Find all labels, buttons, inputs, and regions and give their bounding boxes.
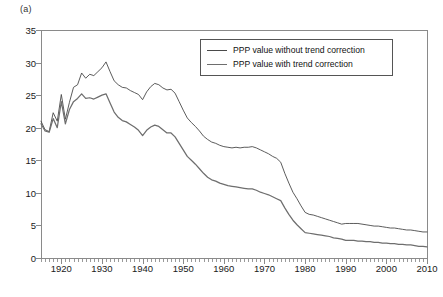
legend-item-with-trend-correction: PPP value with trend correction: [205, 57, 388, 71]
legend: PPP value without trend correction PPP v…: [200, 39, 393, 76]
legend-label-without-trend-correction: PPP value without trend correction: [233, 45, 365, 55]
series-line-ppp-without-trend-correction: [41, 62, 427, 232]
legend-swatch-thin-line: [207, 50, 227, 51]
legend-label-with-trend-correction: PPP value with trend correction: [233, 59, 353, 69]
figure-panel-a: (a) 05101520253035 192019301940195019601…: [0, 0, 443, 297]
series-line-ppp-with-trend-correction: [41, 94, 427, 247]
legend-item-without-trend-correction: PPP value without trend correction: [205, 43, 388, 57]
legend-swatch-thick-line: [207, 64, 227, 65]
